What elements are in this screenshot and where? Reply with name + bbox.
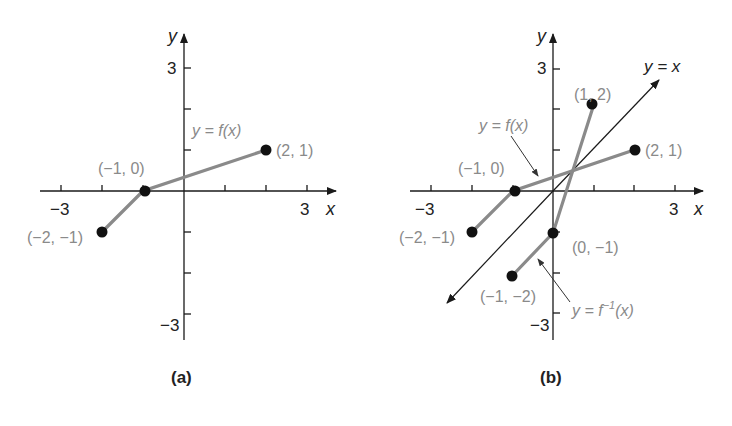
point-label-neg2-neg1: (−2, −1) xyxy=(27,229,83,246)
function-f-label: y = f(x) xyxy=(191,122,241,139)
tick-label-y-neg3: −3 xyxy=(530,316,549,335)
point-label-2-1: (2, 1) xyxy=(645,142,682,159)
graph-a: −3 3 3 −3 y x y = f(x) (−1, 0) (2, 1) (−… xyxy=(27,26,336,387)
tick-label-x-neg3: −3 xyxy=(415,200,434,219)
point-2-1 xyxy=(630,145,641,156)
identity-line-lower xyxy=(447,191,553,303)
point-0-neg1 xyxy=(548,228,559,239)
point-label-2-1: (2, 1) xyxy=(276,142,313,159)
point-label-1-2: (1, 2) xyxy=(574,86,611,103)
tick-label-y-3: 3 xyxy=(167,59,176,78)
function-f-leader-arrow xyxy=(511,136,538,176)
panel-label-b: (b) xyxy=(540,368,562,387)
graph-b: −3 3 3 −3 y x y = x (1, 2) (2, 1) (−1, 0… xyxy=(399,26,704,387)
tick-label-x-neg3: −3 xyxy=(50,200,69,219)
point-2-1 xyxy=(261,145,272,156)
function-f-inverse-leader-arrow xyxy=(538,259,570,302)
point-neg2-neg1 xyxy=(467,227,478,238)
point-label-neg1-neg2: (−1, −2) xyxy=(480,288,536,305)
function-f-inverse-label: y = f−1(x) xyxy=(571,299,634,319)
function-f-label: y = f(x) xyxy=(478,117,528,134)
tick-label-y-neg3: −3 xyxy=(160,316,179,335)
tick-label-x-3: 3 xyxy=(669,200,678,219)
identity-line-label: y = x xyxy=(643,57,681,76)
point-neg1-0 xyxy=(140,186,151,197)
y-axis-label: y xyxy=(166,26,178,46)
point-label-neg2-neg1: (−2, −1) xyxy=(399,229,455,246)
point-neg2-neg1 xyxy=(97,227,108,238)
tick-label-y-3: 3 xyxy=(537,59,546,78)
point-label-neg1-0: (−1, 0) xyxy=(458,160,505,177)
point-label-0-neg1: (0, −1) xyxy=(572,239,619,256)
y-axis-label: y xyxy=(535,26,547,46)
point-label-neg1-0: (−1, 0) xyxy=(98,160,145,177)
figure-canvas: −3 3 3 −3 y x y = f(x) (−1, 0) (2, 1) (−… xyxy=(0,0,732,426)
panel-label-a: (a) xyxy=(171,368,192,387)
tick-label-x-3: 3 xyxy=(300,200,309,219)
x-axis-label: x xyxy=(693,199,704,219)
x-axis-label: x xyxy=(325,199,336,219)
point-neg1-0 xyxy=(510,186,521,197)
point-neg1-neg2 xyxy=(507,271,518,282)
